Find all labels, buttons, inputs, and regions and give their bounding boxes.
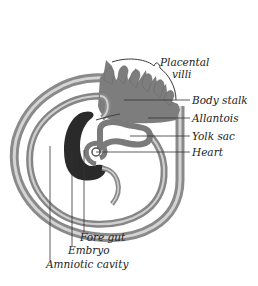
label-fore-gut: Fore gut (79, 231, 126, 243)
label-heart: Heart (191, 146, 224, 158)
label-amniotic-cavity: Amniotic cavity (45, 258, 129, 270)
yolk-sac (100, 122, 150, 148)
label-allantois: Allantois (191, 112, 239, 124)
label-yolk-sac: Yolk sac (192, 130, 235, 142)
label-embryo: Embryo (67, 244, 110, 256)
label-body-stalk: Body stalk (191, 94, 248, 106)
embryo-diagram: Placental villi Body stalk Allantois Yol… (0, 0, 258, 286)
label-placental: Placental (159, 56, 209, 68)
label-villi: villi (172, 68, 191, 80)
